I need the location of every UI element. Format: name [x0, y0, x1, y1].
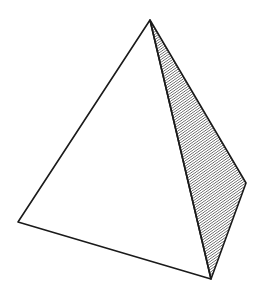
figure-canvas — [0, 0, 268, 302]
tetrahedron-drawing — [0, 0, 268, 302]
